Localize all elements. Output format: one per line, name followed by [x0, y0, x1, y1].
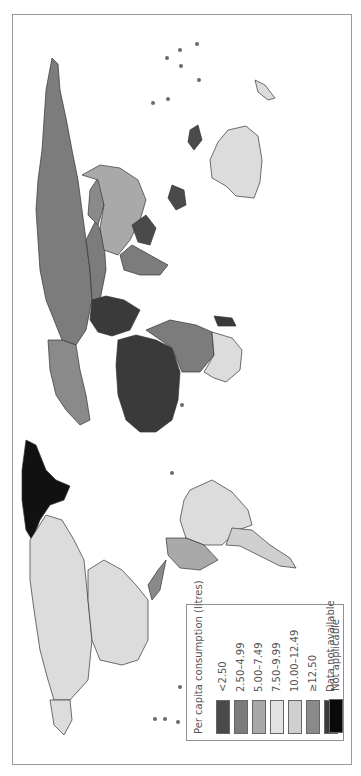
region-middle-east — [90, 296, 140, 336]
legend-label: 7.50–9.99 — [271, 642, 282, 692]
legend-swatch — [329, 699, 343, 733]
region-new-zealand — [255, 80, 275, 100]
legend-item: ≥12.50 — [305, 655, 320, 734]
region-argentina — [226, 528, 296, 568]
region-madagascar — [214, 316, 236, 326]
region-europe — [48, 340, 90, 425]
legend-item: 5.00–7.49 — [251, 642, 266, 734]
region-russia — [36, 58, 92, 345]
region-central-america — [148, 560, 166, 600]
legend-item: 2.50–4.99 — [233, 642, 248, 734]
legend-item: <2.50 — [215, 661, 230, 734]
legend-swatch — [270, 700, 284, 734]
legend-item: 10.00–12.49 — [287, 630, 302, 734]
legend-swatch — [288, 700, 302, 734]
legend-label: ≥12.50 — [307, 655, 318, 692]
region-india — [120, 245, 168, 275]
legend-title: Per capita consumption (litres) — [193, 580, 204, 734]
region-north-africa — [116, 335, 180, 432]
legend-label: 2.50–4.99 — [235, 642, 246, 692]
legend-label: <2.50 — [217, 661, 228, 692]
region-australia — [210, 126, 262, 198]
legend-swatch — [216, 700, 230, 734]
legend-label: Not applicable — [330, 619, 341, 691]
legend-swatch — [252, 700, 266, 734]
region-alaska — [50, 700, 72, 735]
legend-item: Not applicable — [328, 619, 343, 733]
region-united-states — [88, 560, 148, 665]
region-indonesia — [168, 185, 186, 210]
legend-label: 5.00–7.49 — [253, 642, 264, 692]
legend-swatch — [306, 700, 320, 734]
region-canada — [30, 515, 92, 700]
legend-content: Per capita consumption (litres) <2.50 2.… — [187, 605, 345, 742]
legend-label: 10.00–12.49 — [289, 630, 300, 692]
legend-swatch — [234, 700, 248, 734]
legend-item: 7.50–9.99 — [269, 642, 284, 734]
legend: Per capita consumption (litres) <2.50 2.… — [186, 604, 344, 741]
region-philippines — [188, 125, 202, 150]
